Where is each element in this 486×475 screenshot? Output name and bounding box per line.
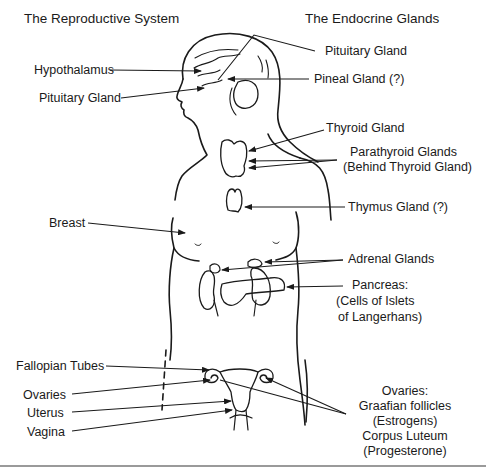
title-endocrine-glands: The Endocrine Glands — [305, 11, 439, 26]
title-reproductive-system: The Reproductive System — [24, 11, 179, 26]
label-ovaries-right-line1: Ovaries: — [340, 384, 470, 399]
right-shoulder — [300, 158, 331, 220]
left-adrenal — [210, 264, 220, 273]
leader-fallopian — [106, 366, 209, 370]
label-hypothalamus: Hypothalamus — [34, 63, 114, 78]
leader-pituitary-right — [218, 35, 315, 80]
label-pineal: Pineal Gland (?) — [314, 72, 404, 87]
head-outline — [182, 34, 318, 162]
left-hip-dashed — [162, 350, 166, 410]
label-ovaries-right-line4: Corpus Luteum — [340, 429, 470, 444]
label-adrenal: Adrenal Glands — [348, 252, 434, 267]
label-thymus: Thymus Gland (?) — [348, 200, 448, 215]
label-pituitary-right: Pituitary Gland — [325, 44, 407, 59]
bottom-divider — [0, 465, 486, 467]
label-pancreas-line2: (Cells of Islets — [336, 294, 415, 309]
label-uterus: Uterus — [27, 406, 64, 421]
right-adrenal — [248, 259, 262, 267]
label-ovaries-right-line5: (Progesterone) — [340, 444, 470, 459]
thyroid-gland — [221, 140, 247, 177]
right-kidney — [251, 268, 271, 305]
label-parathyroid-line1: Parathyroid Glands — [350, 145, 457, 160]
leader-breast — [88, 223, 185, 233]
leader-ovaries-left — [72, 380, 210, 394]
label-pancreas-line3: of Langerhans) — [338, 310, 422, 325]
left-torso — [169, 218, 174, 360]
label-ovaries-right-line3: (Estrogens) — [340, 414, 470, 429]
endocrine-reproductive-diagram: The Reproductive System The Endocrine Gl… — [0, 0, 486, 475]
leader-vagina — [72, 410, 232, 431]
vagina — [230, 410, 252, 430]
label-vagina: Vagina — [27, 425, 65, 440]
label-breast: Breast — [49, 216, 85, 231]
face-profile — [175, 79, 207, 200]
leader-pancreas — [287, 286, 343, 287]
leader-thyroid — [249, 130, 324, 151]
label-ovaries-left: Ovaries — [23, 388, 66, 403]
cerebellum — [234, 81, 258, 109]
left-kidney — [199, 271, 214, 309]
label-pancreas-line1: Pancreas: — [352, 278, 408, 293]
thymus-gland — [227, 189, 243, 212]
label-thyroid: Thyroid Gland — [326, 121, 405, 136]
label-ovaries-right-line2: Graafian follicles — [340, 399, 470, 414]
leader-hypothalamus — [110, 70, 201, 71]
uterus — [220, 369, 258, 412]
leader-uterus — [72, 401, 231, 412]
label-pituitary-left: Pituitary Gland — [39, 91, 121, 106]
leader-pituitary-left — [121, 88, 204, 98]
label-fallopian-tubes: Fallopian Tubes — [16, 359, 104, 374]
right-hip — [305, 360, 307, 422]
label-parathyroid-line2: (Behind Thyroid Gland) — [343, 160, 472, 175]
